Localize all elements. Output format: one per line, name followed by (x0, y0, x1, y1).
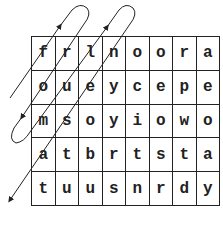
grid-cell: o (150, 37, 174, 71)
grid-cell: r (56, 37, 80, 71)
grid-cell: r (173, 37, 197, 71)
grid-cell: p (173, 71, 197, 105)
grid-cell: e (79, 71, 103, 105)
grid-cell: i (126, 105, 150, 139)
grid-cell: f (32, 37, 56, 71)
grid-cell: y (103, 105, 127, 139)
grid-cell: o (79, 105, 103, 139)
grid-cell: e (197, 71, 221, 105)
grid-cell: u (56, 71, 80, 105)
grid-cell: t (126, 138, 150, 172)
grid-cell: a (197, 37, 221, 71)
grid-cell: t (32, 172, 56, 206)
grid-cell: r (150, 172, 174, 206)
grid-cell: d (173, 172, 197, 206)
grid-cell: a (197, 138, 221, 172)
grid-cell: n (126, 172, 150, 206)
grid-cell: s (56, 105, 80, 139)
grid-cell: n (103, 37, 127, 71)
grid-cell: t (56, 138, 80, 172)
grid-cell: b (79, 138, 103, 172)
grid-cell: m (32, 105, 56, 139)
grid-cell: y (103, 71, 127, 105)
grid-cell: r (103, 138, 127, 172)
grid-cell: e (150, 71, 174, 105)
letter-grid: f r l n o o r a o u e y c e p e m s o y … (31, 36, 220, 206)
grid-cell: o (150, 105, 174, 139)
grid-cell: w (173, 105, 197, 139)
grid-cell: o (32, 71, 56, 105)
grid-cell: o (126, 37, 150, 71)
grid-cell: s (103, 172, 127, 206)
grid-cell: u (79, 172, 103, 206)
grid-cell: a (32, 138, 56, 172)
grid-cell: l (79, 37, 103, 71)
grid-cell: s (150, 138, 174, 172)
grid-cell: y (197, 172, 221, 206)
grid-cell: o (197, 105, 221, 139)
grid-cell: u (56, 172, 80, 206)
grid-cell: t (173, 138, 197, 172)
grid-cell: c (126, 71, 150, 105)
